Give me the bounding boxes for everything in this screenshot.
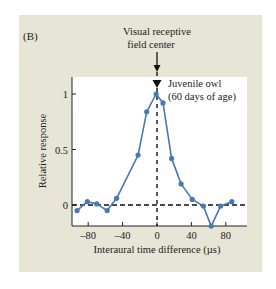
x-tick-label: –80	[79, 230, 96, 241]
panel-label: (B)	[23, 30, 38, 43]
annotation-field-center: field center	[127, 39, 175, 50]
x-axis-label: Interaural time difference (µs)	[94, 244, 221, 256]
data-point	[135, 152, 140, 157]
data-point	[144, 109, 149, 114]
data-point	[209, 223, 214, 228]
annotation-visual-receptive: Visual receptive	[123, 26, 191, 37]
data-point	[190, 197, 195, 202]
y-tick-label: 0	[63, 200, 68, 211]
x-tick-label: 0	[154, 230, 159, 241]
annotation-age: (60 days of age)	[168, 91, 236, 103]
x-tick-label: 80	[221, 230, 232, 241]
x-tick-label: 40	[186, 230, 197, 241]
y-tick-label: 1	[63, 89, 68, 100]
data-point	[178, 181, 183, 186]
data-point	[169, 156, 174, 161]
data-point	[114, 196, 119, 201]
data-point	[105, 208, 110, 213]
annotation-juvenile-owl: Juvenile owl	[168, 78, 221, 89]
data-point	[74, 208, 79, 213]
y-tick-label: 0.5	[55, 145, 68, 156]
data-point	[94, 201, 99, 206]
data-point	[201, 204, 206, 209]
y-axis-label: Relative response	[37, 113, 48, 188]
data-point	[218, 204, 223, 209]
data-point	[85, 199, 90, 204]
x-tick-label: –40	[114, 230, 131, 241]
data-point	[229, 199, 234, 204]
data-point	[160, 100, 165, 105]
chart: 00.51–80–4004080 (B) Visual receptive fi…	[0, 0, 276, 289]
data-point	[154, 91, 159, 96]
